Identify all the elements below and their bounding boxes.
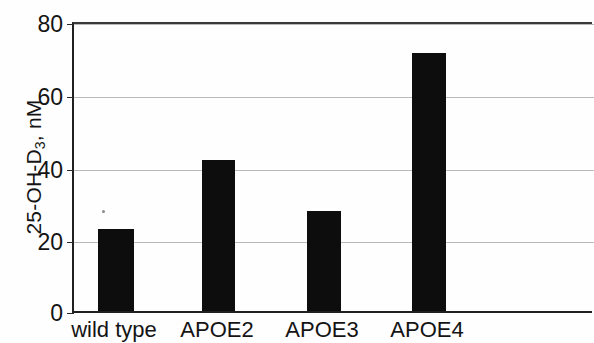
x-tick-label-apoe3: APOE3 [285, 316, 358, 343]
x-tick-label-apoe4: APOE4 [390, 316, 463, 343]
gridline-60 [74, 97, 594, 98]
y-tick-label-80: 80 [37, 13, 63, 36]
tickmark-80 [67, 24, 74, 25]
gridline-40 [74, 170, 594, 171]
y-axis-title-subscript: 3 [32, 141, 48, 149]
tickmark-60 [67, 97, 74, 98]
tickmark-20 [67, 242, 74, 243]
x-tick-label-wild-type: wild type [71, 316, 157, 343]
x-axis-labels: wild type APOE2 APOE3 APOE4 [72, 316, 592, 343]
bar-wild-type [98, 229, 134, 311]
gridline-80 [74, 24, 594, 25]
bar-apoe4 [412, 53, 446, 311]
bar-apoe3 [307, 211, 341, 311]
tickmark-40 [67, 170, 74, 171]
y-tick-label-60: 60 [37, 85, 63, 108]
plot-area: 80 60 40 20 0 [72, 22, 592, 313]
y-tick-label-20: 20 [37, 231, 63, 254]
y-tick-label-40: 40 [37, 158, 63, 181]
x-tick-label-apoe2: APOE2 [180, 316, 253, 343]
bar-apoe2 [202, 160, 235, 311]
tickmark-0 [67, 313, 74, 314]
y-tick-label-0: 0 [50, 302, 63, 325]
scan-artifact-speck [102, 210, 105, 213]
